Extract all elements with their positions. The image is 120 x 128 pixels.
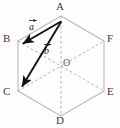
figure-canvas	[0, 0, 120, 128]
vertex-label-C: C	[3, 86, 10, 97]
vertex-label-A: A	[56, 1, 64, 12]
vertex-label-F: F	[107, 33, 113, 44]
vertex-label-B: B	[3, 33, 10, 44]
edge-C-D	[18, 91, 61, 116]
center-label-O: O	[63, 58, 70, 68]
edge-A-B	[18, 16, 61, 41]
vertex-label-D: D	[56, 115, 64, 126]
vertex-label-E: E	[107, 86, 114, 97]
vector-label-b: b	[44, 46, 49, 56]
edge-D-E	[61, 91, 104, 116]
edge-F-A	[61, 16, 104, 41]
hexagon-vector-figure: A B C D E F O a b	[0, 0, 120, 128]
vector-label-a: a	[29, 22, 34, 32]
